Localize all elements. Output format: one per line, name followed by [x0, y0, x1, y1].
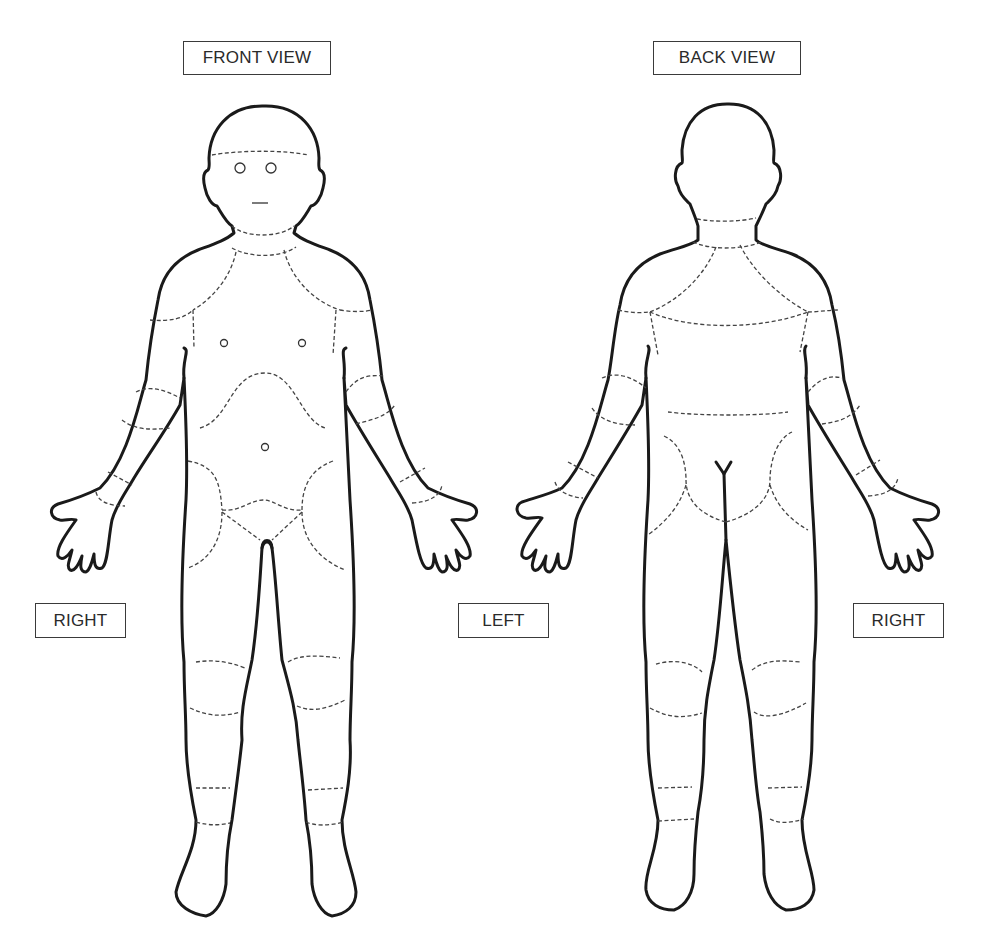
- body-diagram: [0, 0, 984, 946]
- front-view-body: [51, 106, 476, 916]
- left-nipple-icon: [299, 340, 306, 347]
- back-body-outline: [517, 104, 939, 910]
- navel-icon: [262, 444, 269, 451]
- back-view-body: [517, 104, 939, 910]
- left-eye-icon: [266, 163, 276, 173]
- front-body-outline: [51, 106, 476, 916]
- right-nipple-icon: [221, 340, 228, 347]
- right-eye-icon: [235, 163, 245, 173]
